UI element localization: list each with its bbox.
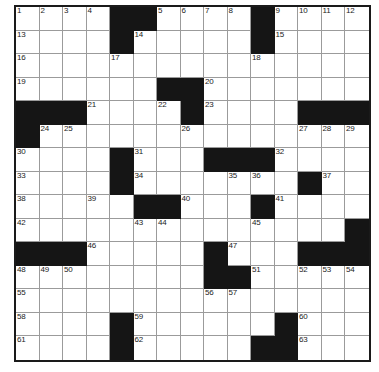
grid-cell[interactable] [134, 242, 158, 266]
grid-cell[interactable] [40, 31, 64, 55]
grid-cell[interactable] [298, 148, 322, 172]
grid-cell[interactable] [228, 125, 252, 149]
grid-cell[interactable] [134, 78, 158, 102]
grid-cell[interactable]: 53 [322, 266, 346, 290]
grid-cell[interactable] [204, 219, 228, 243]
grid-cell[interactable] [87, 78, 111, 102]
grid-cell[interactable] [275, 289, 299, 313]
grid-cell[interactable] [345, 195, 369, 219]
grid-cell[interactable] [251, 125, 275, 149]
grid-cell[interactable] [322, 31, 346, 55]
grid-cell[interactable]: 43 [134, 219, 158, 243]
grid-cell[interactable]: 25 [63, 125, 87, 149]
grid-cell[interactable] [298, 195, 322, 219]
grid-cell[interactable]: 36 [251, 172, 275, 196]
grid-cell[interactable] [345, 31, 369, 55]
grid-cell[interactable] [345, 289, 369, 313]
grid-cell[interactable]: 1 [16, 7, 40, 31]
grid-cell[interactable] [298, 78, 322, 102]
grid-cell[interactable]: 16 [16, 54, 40, 78]
grid-cell[interactable]: 17 [110, 54, 134, 78]
grid-cell[interactable] [275, 125, 299, 149]
grid-cell[interactable]: 5 [157, 7, 181, 31]
grid-cell[interactable] [87, 336, 111, 360]
grid-cell[interactable]: 6 [181, 7, 205, 31]
grid-cell[interactable] [298, 54, 322, 78]
grid-cell[interactable] [275, 78, 299, 102]
grid-cell[interactable] [228, 336, 252, 360]
grid-cell[interactable]: 33 [16, 172, 40, 196]
grid-cell[interactable]: 21 [87, 101, 111, 125]
grid-cell[interactable]: 8 [228, 7, 252, 31]
grid-cell[interactable]: 37 [322, 172, 346, 196]
grid-cell[interactable] [87, 289, 111, 313]
grid-cell[interactable] [322, 219, 346, 243]
grid-cell[interactable] [322, 289, 346, 313]
grid-cell[interactable]: 2 [40, 7, 64, 31]
grid-cell[interactable] [87, 54, 111, 78]
grid-cell[interactable] [63, 313, 87, 337]
grid-cell[interactable]: 27 [298, 125, 322, 149]
grid-cell[interactable] [345, 148, 369, 172]
grid-cell[interactable]: 38 [16, 195, 40, 219]
grid-cell[interactable] [134, 289, 158, 313]
grid-cell[interactable] [322, 54, 346, 78]
grid-cell[interactable] [204, 195, 228, 219]
grid-cell[interactable] [345, 172, 369, 196]
grid-cell[interactable]: 56 [204, 289, 228, 313]
grid-cell[interactable] [228, 31, 252, 55]
grid-cell[interactable] [40, 336, 64, 360]
grid-cell[interactable] [157, 125, 181, 149]
grid-cell[interactable]: 52 [298, 266, 322, 290]
grid-cell[interactable] [63, 289, 87, 313]
grid-cell[interactable] [181, 266, 205, 290]
grid-cell[interactable] [322, 336, 346, 360]
grid-cell[interactable] [204, 172, 228, 196]
grid-cell[interactable] [275, 101, 299, 125]
grid-cell[interactable] [87, 266, 111, 290]
grid-cell[interactable] [204, 336, 228, 360]
grid-cell[interactable] [298, 31, 322, 55]
grid-cell[interactable] [251, 78, 275, 102]
grid-cell[interactable] [181, 54, 205, 78]
grid-cell[interactable] [40, 78, 64, 102]
grid-cell[interactable] [134, 101, 158, 125]
grid-cell[interactable]: 45 [251, 219, 275, 243]
grid-cell[interactable] [40, 54, 64, 78]
grid-cell[interactable] [181, 219, 205, 243]
grid-cell[interactable] [157, 266, 181, 290]
grid-cell[interactable]: 11 [322, 7, 346, 31]
grid-cell[interactable] [204, 313, 228, 337]
grid-cell[interactable] [345, 313, 369, 337]
grid-cell[interactable]: 35 [228, 172, 252, 196]
grid-cell[interactable] [275, 54, 299, 78]
grid-cell[interactable] [63, 336, 87, 360]
grid-cell[interactable]: 54 [345, 266, 369, 290]
grid-cell[interactable] [110, 242, 134, 266]
grid-cell[interactable] [87, 219, 111, 243]
grid-cell[interactable]: 9 [275, 7, 299, 31]
grid-cell[interactable]: 31 [134, 148, 158, 172]
grid-cell[interactable] [181, 31, 205, 55]
grid-cell[interactable] [228, 78, 252, 102]
grid-cell[interactable] [157, 31, 181, 55]
grid-cell[interactable] [204, 125, 228, 149]
grid-cell[interactable] [63, 172, 87, 196]
grid-cell[interactable] [63, 219, 87, 243]
grid-cell[interactable]: 55 [16, 289, 40, 313]
grid-cell[interactable]: 48 [16, 266, 40, 290]
grid-cell[interactable] [110, 195, 134, 219]
grid-cell[interactable] [181, 289, 205, 313]
grid-cell[interactable]: 41 [275, 195, 299, 219]
grid-cell[interactable]: 20 [204, 78, 228, 102]
grid-cell[interactable] [275, 172, 299, 196]
grid-cell[interactable] [110, 289, 134, 313]
grid-cell[interactable]: 50 [63, 266, 87, 290]
grid-cell[interactable]: 13 [16, 31, 40, 55]
grid-cell[interactable] [40, 172, 64, 196]
grid-cell[interactable]: 34 [134, 172, 158, 196]
grid-cell[interactable] [134, 54, 158, 78]
grid-cell[interactable] [110, 125, 134, 149]
grid-cell[interactable] [157, 313, 181, 337]
grid-cell[interactable] [322, 148, 346, 172]
